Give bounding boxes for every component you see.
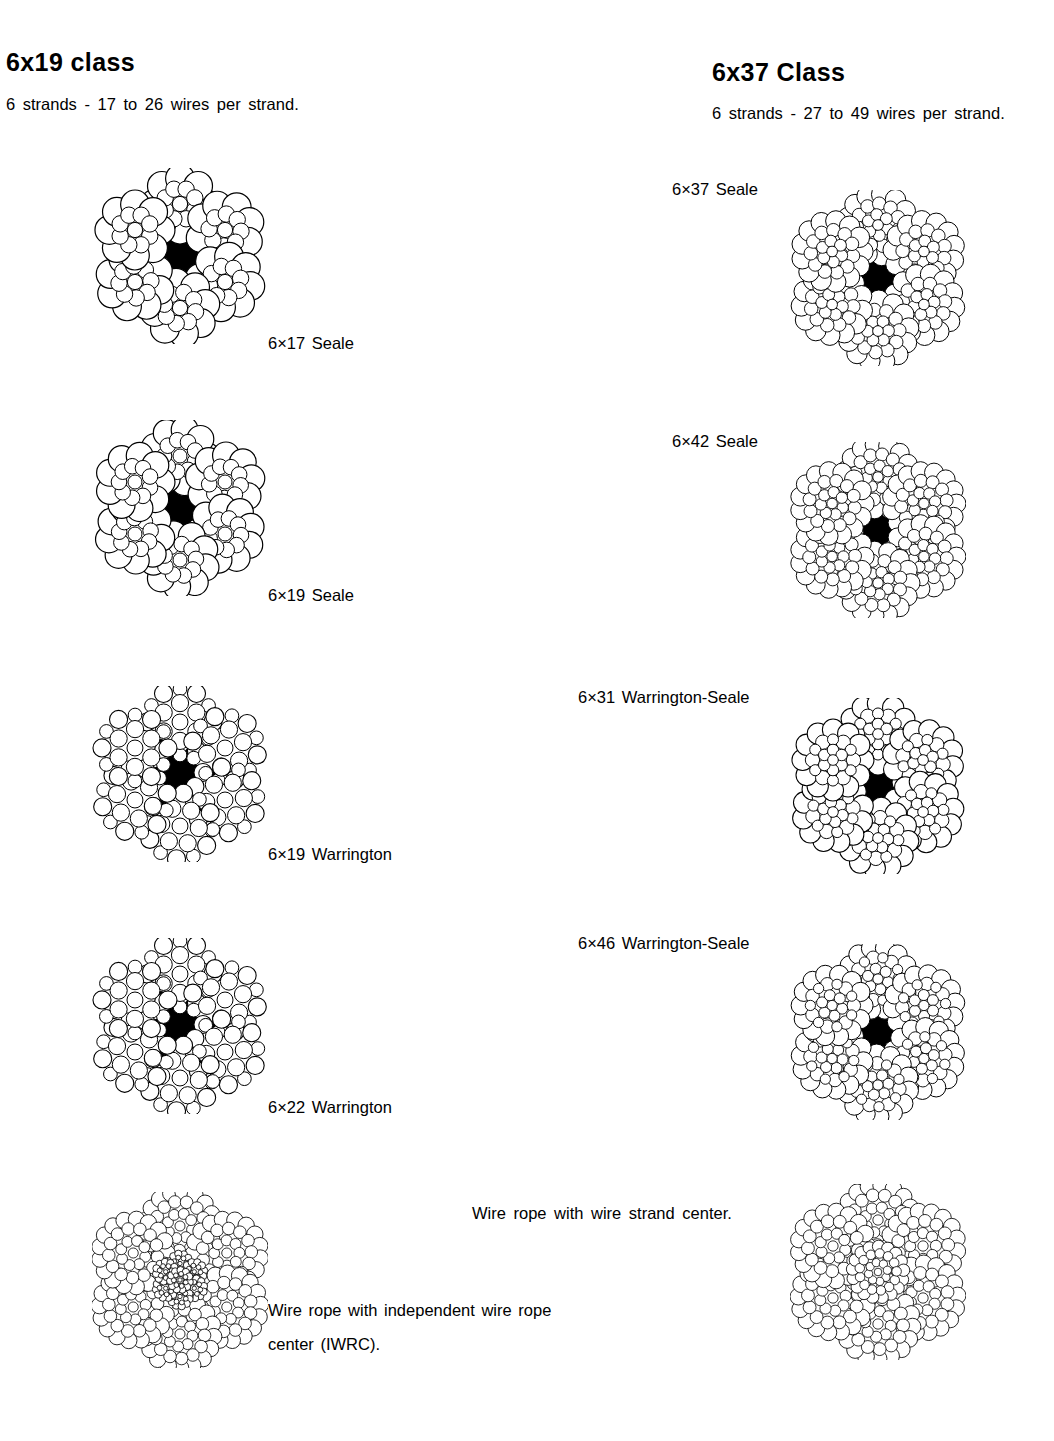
caption-wire-strand-center: Wire rope with wire strand center.: [472, 1196, 732, 1230]
left-column-subtitle: 6 strands - 17 to 26 wires per strand.: [6, 95, 299, 114]
rope-diagram-6x37-seale: [790, 190, 966, 366]
rope-label-6x22-warrington: 6×22 Warrington: [268, 1098, 392, 1117]
rope-diagram-6x31-warrington-seale: [790, 698, 966, 874]
caption-iwrc-line2: center (IWRC).: [268, 1327, 698, 1361]
rope-label-6x17-seale: 6×17 Seale: [268, 334, 354, 353]
rope-label-6x31-warrington-seale: 6×31 Warrington-Seale: [578, 688, 750, 707]
rope-diagram-6x19-seale: [92, 420, 268, 596]
wire-rope-construction-chart: 6x19 class 6 strands - 17 to 26 wires pe…: [0, 0, 1054, 1441]
rope-label-6x42-seale: 6×42 Seale: [672, 432, 758, 451]
caption-iwrc: Wire rope with independent wire rope cen…: [268, 1293, 698, 1361]
right-column-heading: 6x37 Class: [712, 58, 845, 87]
rope-diagram-6x42-seale: [790, 442, 966, 618]
rope-label-6x46-warrington-seale: 6×46 Warrington-Seale: [578, 934, 750, 953]
rope-diagram-6x17-seale: [92, 168, 268, 344]
caption-iwrc-line1: Wire rope with independent wire rope: [268, 1293, 698, 1327]
rope-diagram-iwrc: [92, 1192, 268, 1368]
rope-label-6x37-seale: 6×37 Seale: [672, 180, 758, 199]
rope-label-6x19-seale: 6×19 Seale: [268, 586, 354, 605]
rope-diagram-6x46-warrington-seale: [790, 944, 966, 1120]
right-column-subtitle: 6 strands - 27 to 49 wires per strand.: [712, 104, 1005, 123]
rope-diagram-6x22-warrington: [92, 938, 268, 1114]
left-column-heading: 6x19 class: [6, 48, 135, 77]
rope-diagram-6x19-warrington: [92, 686, 268, 862]
rope-diagram-wire-strand-center: [790, 1184, 966, 1360]
rope-label-6x19-warrington: 6×19 Warrington: [268, 845, 392, 864]
